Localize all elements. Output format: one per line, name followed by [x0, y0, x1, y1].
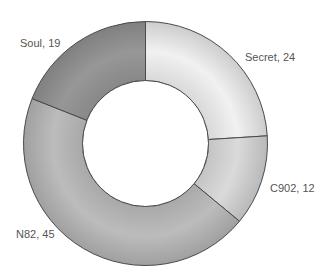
slice-label-soul: Soul, 19: [20, 37, 60, 49]
slice-label-secret: Secret, 24: [245, 51, 295, 63]
slice-label-c902: C902, 12: [270, 182, 315, 194]
slice-label-n82: N82, 45: [16, 228, 55, 240]
donut-hole: [83, 81, 209, 207]
